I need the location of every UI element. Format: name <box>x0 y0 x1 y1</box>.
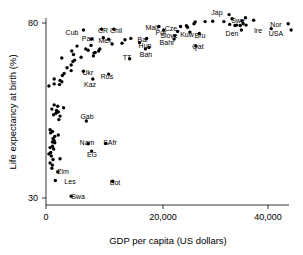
axes-group <box>42 18 289 209</box>
data-point-label: Bru <box>195 32 206 39</box>
y-tick-label-30: 30 <box>28 193 38 203</box>
data-point-labels-layer: CubCRChilMaltCzePorSloveKuwBruQatBahrBar… <box>57 9 283 200</box>
data-point-label: Bah <box>140 51 153 58</box>
data-point-label: Cub <box>66 29 79 36</box>
data-point <box>186 26 189 29</box>
data-point-label: Zim <box>57 168 69 175</box>
data-point <box>69 63 72 66</box>
data-point <box>123 38 126 41</box>
data-point-label: Pan <box>82 35 95 42</box>
x-tick-label-40000: 40,000 <box>254 212 282 222</box>
data-point <box>211 20 214 23</box>
data-point <box>92 54 95 57</box>
data-point <box>51 145 54 148</box>
data-point <box>48 161 51 164</box>
data-point <box>52 77 55 80</box>
data-point-label: Cze <box>165 25 178 32</box>
data-point <box>49 151 52 154</box>
data-point-label: Kaz <box>84 81 97 88</box>
data-point-label: Bot <box>110 179 121 186</box>
data-point <box>62 72 65 75</box>
data-point <box>50 167 53 170</box>
data-point <box>82 28 85 31</box>
data-point <box>120 42 123 45</box>
data-point <box>60 56 63 59</box>
data-point-label: Mex <box>98 37 112 44</box>
data-point-label: Rus <box>101 73 114 80</box>
data-point <box>57 133 60 136</box>
data-point <box>240 28 243 31</box>
data-point-label: USA <box>269 30 284 37</box>
data-point <box>222 20 225 23</box>
data-point-label: EG <box>87 151 97 158</box>
data-point <box>72 53 75 56</box>
data-point <box>62 106 65 109</box>
data-point <box>89 44 92 47</box>
data-point <box>193 20 196 23</box>
data-point-label: CR <box>98 27 108 34</box>
data-point <box>203 20 206 23</box>
data-point <box>58 157 61 160</box>
data-point-label: Nam <box>80 139 95 146</box>
data-point <box>244 23 247 26</box>
data-point <box>51 158 54 161</box>
data-point <box>69 69 72 72</box>
data-point <box>98 47 101 50</box>
data-point <box>79 56 82 59</box>
data-point <box>289 28 292 31</box>
data-point-label: Chil <box>110 27 123 34</box>
data-point <box>52 82 55 85</box>
data-point-label: Jap <box>211 9 222 17</box>
data-point <box>70 49 73 52</box>
data-point-label: Den <box>226 30 239 37</box>
data-point <box>56 105 59 108</box>
scatter-plot-figure: 80 30 0 20,000 40,000 GDP per capita (US… <box>0 0 303 255</box>
data-point-label: Les <box>64 178 76 185</box>
x-tick-label-0: 0 <box>43 212 48 222</box>
data-point <box>58 114 61 117</box>
data-point <box>93 51 96 54</box>
data-point-label: TT <box>123 54 132 61</box>
data-point <box>55 109 58 112</box>
data-point <box>239 24 242 27</box>
data-point-label: Swa <box>71 193 85 200</box>
data-point <box>48 128 51 131</box>
data-point-label: Bahr <box>160 39 175 46</box>
tick-labels-group: 80 30 0 20,000 40,000 <box>28 18 282 222</box>
data-point <box>227 13 230 16</box>
data-point-label: Ire <box>254 27 262 34</box>
x-tick-label-20000: 20,000 <box>149 212 177 222</box>
data-point <box>73 58 76 61</box>
data-point-label: Gab <box>80 113 93 120</box>
y-tick-label-80: 80 <box>28 18 38 28</box>
data-point <box>65 66 68 69</box>
data-point-label: Swe <box>231 17 245 24</box>
data-point-label: Ukr <box>83 69 95 76</box>
data-point <box>52 103 55 106</box>
data-point <box>75 44 78 47</box>
x-axis-title: GDP per capita (US dollars) <box>109 235 227 246</box>
data-point-label: Kuw <box>180 31 195 38</box>
y-axis-title: Life expectancy at birth (%) <box>7 54 18 169</box>
data-point <box>84 47 87 50</box>
data-point <box>57 118 60 121</box>
data-point-label: Nor <box>270 21 282 28</box>
data-point <box>50 107 53 110</box>
data-point <box>58 83 61 86</box>
data-point-label: Slove <box>160 32 178 39</box>
plot-canvas: 80 30 0 20,000 40,000 GDP per capita (US… <box>0 0 303 255</box>
data-point <box>286 22 289 25</box>
data-point <box>54 179 57 182</box>
data-point <box>129 37 132 40</box>
data-point-label: Qat <box>192 43 203 51</box>
data-point <box>58 79 61 82</box>
data-point <box>53 135 56 138</box>
data-point <box>47 84 50 87</box>
data-point-label: SAfr <box>103 139 117 146</box>
data-point <box>179 25 182 28</box>
data-point-label: Hun <box>139 42 152 49</box>
data-point <box>252 19 255 22</box>
